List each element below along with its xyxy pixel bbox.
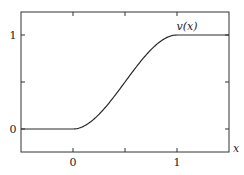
- curve-label: v(x): [176, 20, 197, 33]
- x-tick-label-1: 1: [174, 156, 181, 169]
- curve-v-of-x: [21, 35, 229, 129]
- y-tick-label-0: 0: [10, 123, 17, 136]
- chart: 0 1 0 1 x v(x): [0, 0, 244, 175]
- x-tick-label-0: 0: [70, 156, 77, 169]
- y-tick-label-1: 1: [10, 29, 17, 42]
- x-axis-label: x: [233, 142, 240, 155]
